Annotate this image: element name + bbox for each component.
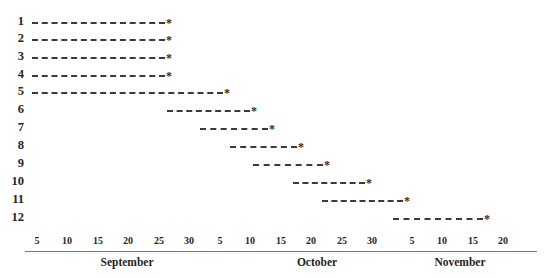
milestone-marker-icon: * [484, 214, 490, 224]
x-axis-line [25, 251, 537, 252]
task-bar [322, 200, 403, 202]
task-bar [32, 57, 165, 59]
task-bar [293, 182, 365, 184]
milestone-marker-icon: * [366, 178, 372, 188]
x-axis-month-label: September [67, 256, 187, 269]
task-bar [167, 110, 250, 112]
task-row-label: 6 [0, 103, 24, 115]
x-axis-tick-label: 15 [462, 235, 484, 246]
task-row-label: 1 [0, 15, 24, 27]
task-row-label: 11 [0, 193, 24, 205]
task-row-label: 2 [0, 32, 24, 44]
task-bar [230, 146, 297, 148]
x-axis-tick-label: 10 [239, 235, 261, 246]
x-axis-month-label: October [257, 256, 377, 269]
task-row-label: 7 [0, 121, 24, 133]
task-bar [32, 75, 165, 77]
task-row-label: 8 [0, 139, 24, 151]
x-axis-tick-label: 25 [148, 235, 170, 246]
milestone-marker-icon: * [224, 88, 230, 98]
task-bar [32, 22, 165, 24]
task-bar [200, 128, 268, 130]
x-axis-tick-label: 15 [270, 235, 292, 246]
task-row-label: 3 [0, 50, 24, 62]
milestone-marker-icon: * [166, 53, 172, 63]
task-row-label: 12 [0, 211, 24, 223]
milestone-marker-icon: * [251, 106, 257, 116]
x-axis-tick-label: 30 [178, 235, 200, 246]
x-axis-tick-label: 5 [209, 235, 231, 246]
task-bar [393, 218, 483, 220]
x-axis-tick-label: 20 [300, 235, 322, 246]
gantt-chart: 1*2*3*4*5*6*7*8*9*10*11*12*5101520253051… [0, 0, 547, 278]
task-row-label: 10 [0, 175, 24, 187]
task-row-label: 5 [0, 85, 24, 97]
x-axis-tick-label: 20 [117, 235, 139, 246]
task-row-label: 4 [0, 68, 24, 80]
milestone-marker-icon: * [166, 71, 172, 81]
milestone-marker-icon: * [166, 35, 172, 45]
x-axis-tick-label: 10 [431, 235, 453, 246]
task-row-label: 9 [0, 157, 24, 169]
x-axis-tick-label: 5 [26, 235, 48, 246]
milestone-marker-icon: * [324, 160, 330, 170]
x-axis-tick-label: 10 [56, 235, 78, 246]
x-axis-tick-label: 30 [361, 235, 383, 246]
x-axis-tick-label: 15 [87, 235, 109, 246]
milestone-marker-icon: * [166, 18, 172, 28]
milestone-marker-icon: * [404, 196, 410, 206]
task-bar [32, 39, 165, 41]
milestone-marker-icon: * [298, 142, 304, 152]
task-bar [32, 92, 223, 94]
x-axis-tick-label: 5 [401, 235, 423, 246]
milestone-marker-icon: * [269, 124, 275, 134]
x-axis-tick-label: 25 [331, 235, 353, 246]
task-bar [253, 164, 323, 166]
x-axis-month-label: November [400, 256, 520, 269]
x-axis-tick-label: 20 [492, 235, 514, 246]
